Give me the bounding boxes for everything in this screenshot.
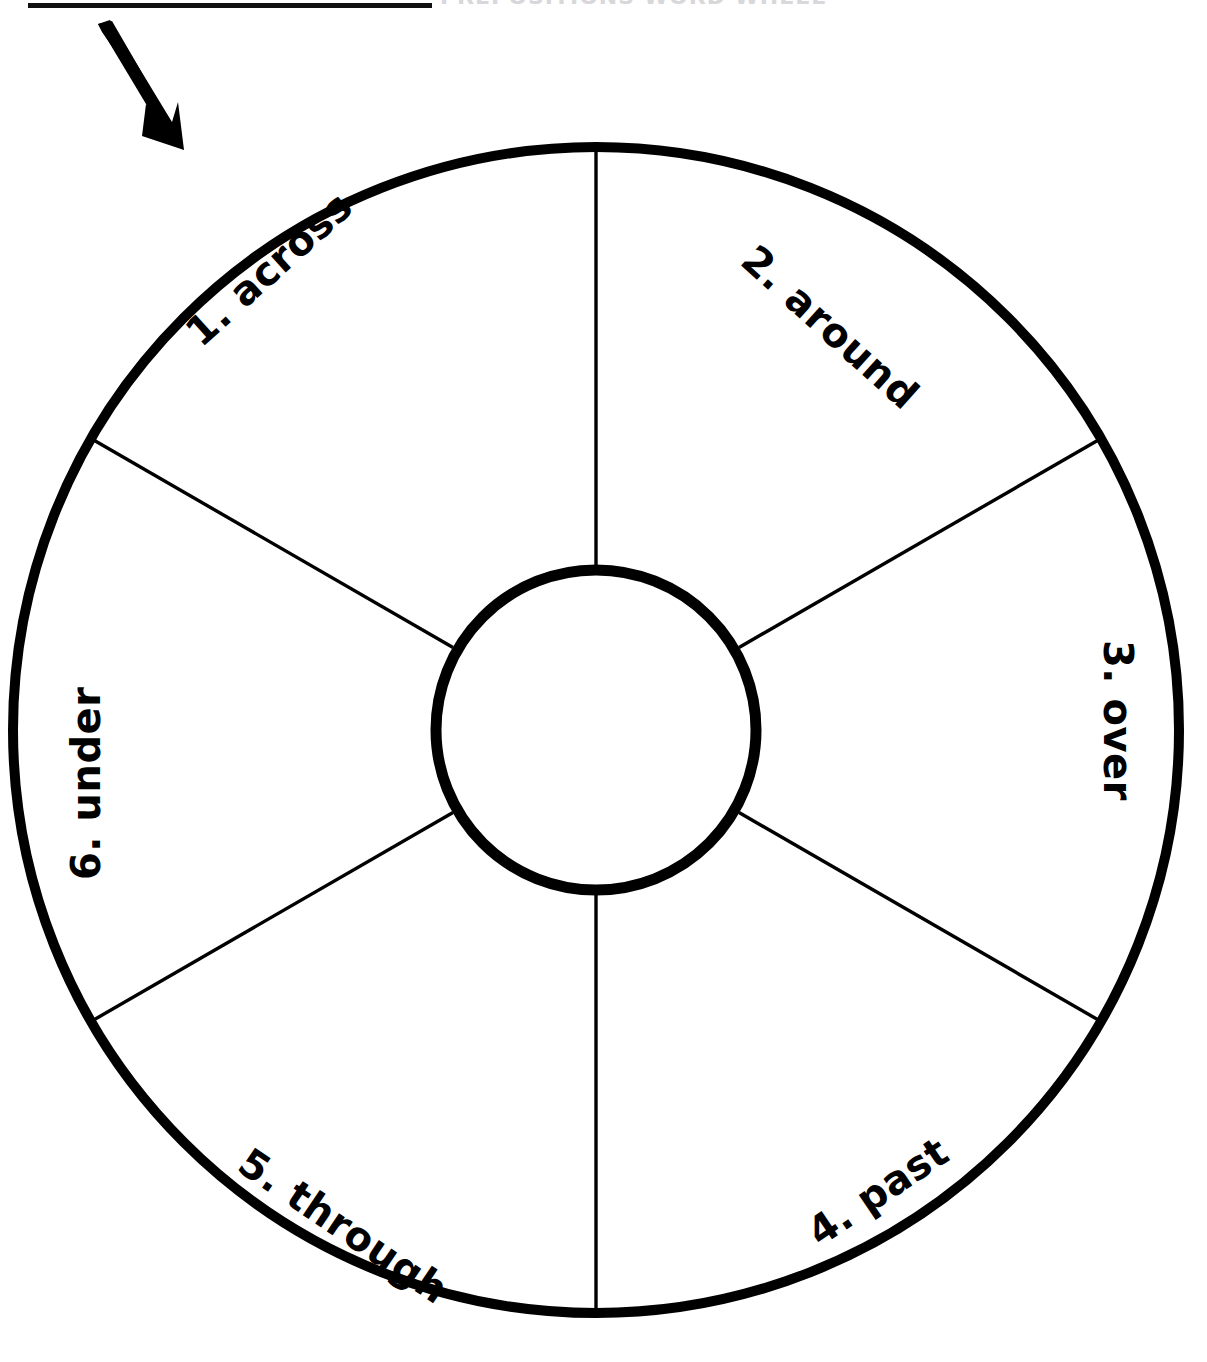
wheel-segment-label-6: 6. under: [66, 687, 106, 880]
worksheet-page: PREPOSITIONS WORD WHEEL 1. across 2. aro…: [0, 0, 1207, 1362]
word-wheel-graphic: [0, 0, 1207, 1362]
wheel-segment-label-3: 3. over: [1098, 640, 1138, 801]
wheel-hub-circle: [436, 570, 756, 890]
